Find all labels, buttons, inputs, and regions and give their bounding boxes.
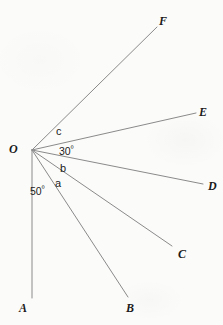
geometry-diagram: O A B C D E F 50º a b 30º c bbox=[0, 0, 223, 325]
rays-canvas bbox=[0, 0, 223, 325]
angle-label-cod: b bbox=[60, 163, 66, 174]
ray-of bbox=[32, 27, 157, 150]
point-label-F: F bbox=[159, 15, 167, 27]
point-label-A: A bbox=[19, 302, 27, 314]
angle-label-boc: a bbox=[55, 178, 61, 189]
angle-value: 30 bbox=[59, 145, 71, 157]
degree-symbol-icon: º bbox=[42, 184, 45, 193]
ray-ob bbox=[32, 150, 128, 297]
degree-symbol-icon: º bbox=[71, 144, 74, 153]
angle-label-doe: 30º bbox=[59, 146, 73, 157]
angle-label-eof: c bbox=[56, 126, 62, 137]
point-label-C: C bbox=[178, 248, 186, 260]
point-label-D: D bbox=[208, 180, 217, 192]
point-label-E: E bbox=[199, 106, 207, 118]
point-label-B: B bbox=[126, 302, 134, 314]
point-label-O: O bbox=[9, 143, 18, 155]
angle-value: 50 bbox=[30, 185, 42, 197]
angle-label-aob: 50º bbox=[30, 186, 44, 197]
